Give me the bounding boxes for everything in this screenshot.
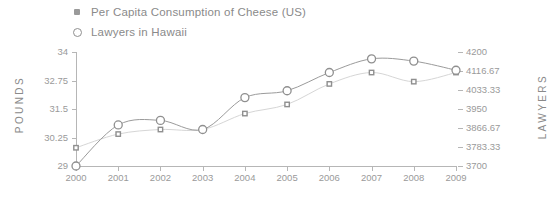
left-tick-label: 29 [16, 160, 68, 171]
x-tick-label: 2004 [225, 172, 265, 183]
hollow-circle-marker-icon [70, 25, 84, 39]
right-axis-title: LAWYERS [537, 74, 548, 139]
data-point-cheese[interactable] [412, 79, 416, 83]
x-tick-mark [203, 167, 204, 171]
x-tick-label: 2002 [140, 172, 180, 183]
right-tick-mark [458, 147, 463, 148]
data-point-lawyers[interactable] [325, 69, 333, 77]
right-tick-label: 4116.67 [466, 65, 500, 76]
legend-label-cheese: Per Capita Consumption of Cheese (US) [91, 6, 306, 18]
x-tick-label: 2005 [267, 172, 307, 183]
right-tick-mark [458, 128, 463, 129]
legend-item-lawyers[interactable]: Lawyers in Hawaii [70, 22, 306, 42]
x-tick-mark [245, 167, 246, 171]
right-tick-mark [458, 52, 463, 53]
legend-label-lawyers: Lawyers in Hawaii [91, 26, 187, 38]
data-point-lawyers[interactable] [368, 55, 376, 63]
data-point-cheese[interactable] [285, 102, 289, 106]
left-tick-label: 34 [16, 46, 68, 57]
right-tick-label: 4033.33 [466, 84, 500, 95]
series-svg [76, 52, 457, 167]
right-tick-label: 3866.67 [466, 122, 500, 133]
x-tick-label: 2006 [309, 172, 349, 183]
data-point-cheese[interactable] [116, 132, 120, 136]
chart-legend: Per Capita Consumption of Cheese (US) La… [70, 2, 306, 42]
right-tick-label: 3783.33 [466, 141, 500, 152]
legend-item-cheese[interactable]: Per Capita Consumption of Cheese (US) [70, 2, 306, 22]
series-line-lawyers [76, 58, 456, 166]
data-point-lawyers[interactable] [410, 57, 418, 65]
data-point-cheese[interactable] [158, 127, 162, 131]
x-tick-mark [118, 167, 119, 171]
left-tick-label: 31.5 [16, 103, 68, 114]
x-tick-mark [456, 167, 457, 171]
data-point-cheese[interactable] [243, 111, 247, 115]
dual-axis-line-chart: Per Capita Consumption of Cheese (US) La… [0, 0, 554, 199]
x-tick-label: 2007 [352, 172, 392, 183]
x-tick-label: 2003 [183, 172, 223, 183]
x-tick-label: 2001 [98, 172, 138, 183]
filled-square-marker-icon [70, 5, 84, 19]
data-point-lawyers[interactable] [72, 162, 80, 170]
x-tick-label: 2009 [436, 172, 476, 183]
left-tick-label: 32.75 [16, 75, 68, 86]
data-point-lawyers[interactable] [241, 94, 249, 102]
right-tick-label: 4200 [466, 46, 487, 57]
data-point-lawyers[interactable] [114, 121, 122, 129]
right-tick-mark [458, 109, 463, 110]
data-point-cheese[interactable] [327, 82, 331, 86]
right-tick-label: 3950 [466, 103, 487, 114]
plot-area [76, 52, 456, 166]
right-tick-mark [458, 90, 463, 91]
x-tick-label: 2008 [394, 172, 434, 183]
data-point-lawyers[interactable] [283, 87, 291, 95]
x-tick-mark [287, 167, 288, 171]
x-tick-mark [414, 167, 415, 171]
data-point-lawyers[interactable] [199, 126, 207, 134]
x-tick-label: 2000 [56, 172, 96, 183]
x-tick-mark [160, 167, 161, 171]
data-point-lawyers[interactable] [452, 66, 460, 74]
x-tick-mark [329, 167, 330, 171]
right-tick-mark [458, 166, 463, 167]
data-point-cheese[interactable] [369, 70, 373, 74]
series-line-cheese [76, 73, 456, 148]
data-point-lawyers[interactable] [156, 116, 164, 124]
right-tick-label: 3700 [466, 160, 487, 171]
x-tick-mark [372, 167, 373, 171]
left-tick-label: 30.25 [16, 132, 68, 143]
data-point-cheese[interactable] [74, 146, 78, 150]
